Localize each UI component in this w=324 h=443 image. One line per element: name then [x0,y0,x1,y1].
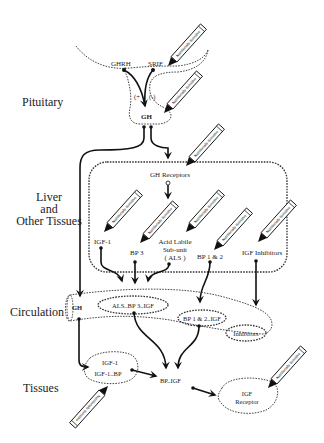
svg-text:Nutritionally Sensitive: Nutritionally Sensitive [111,196,137,224]
ghrh-label: GHRH [111,60,131,68]
liver-igf-inhibitors-label: IGF Inhibitors [242,249,283,257]
igf-receptor-label-1: IGF [242,390,253,397]
igf-receptor-label-2: Receptor [235,398,259,405]
liver-bp12-label: BP 1 & 2 [197,253,223,261]
svg-text:Nutritionally Sensitive: Nutritionally Sensitive [221,214,247,242]
bp12-igf-label: BP 1 & 2..IGF [183,315,221,322]
pencil-igf-inhibitors: Nutritionally Sensitive [255,200,296,245]
svg-text:Nutritionally Sensitive: Nutritionally Sensitive [275,352,301,380]
tissue-cell-outline [84,352,138,384]
tissue-igf1-bp-label: IGF-1..BP [94,370,121,377]
svg-text:Nutritionally Sensitive: Nutritionally Sensitive [175,30,201,58]
region-label-tissues: Tissues [23,381,59,395]
liver-bp3-label: BP 3 [130,249,144,257]
srif-arrow [145,70,153,106]
circulation-gh-label: GH [72,304,82,311]
liver-als-line1: Acid Labile [158,238,191,246]
gh-to-liver-arrow [151,127,168,158]
gh-to-tissues-arrow [79,319,88,367]
pencil-tissue-cell: Nutritionally Sensitive [70,383,111,428]
pencil-bp12: Nutritionally Sensitive [211,208,252,253]
svg-text:Nutritionally Sensitive: Nutritionally Sensitive [171,77,197,105]
bp-igf-arrow [193,388,215,395]
gh-igf-axis-diagram: Pituitary Liver and Other Tissues Circul… [0,0,324,443]
liver-als-line2: Sub-unit [163,246,187,254]
bp12-complex-arrow [178,326,199,368]
inhibit-sign: (-) [149,93,156,101]
pencil-igf1: Nutritionally Sensitive [101,190,142,235]
igf1-arrow [101,248,122,281]
circulation-inhibitors-label: Inhibitors [233,330,259,337]
pencil-pituitary: Nutritionally Sensitive [161,71,202,116]
gh-receptor-circle [166,181,170,185]
ghrh-arrow [124,70,145,106]
liver-igf1-label: IGF-1 [94,238,112,246]
liver-als-line3: ( ALS ) [165,254,187,262]
pituitary-gh-label: GH [141,113,152,121]
tissue-igf1-label: IGF-1 [102,359,118,366]
als-bp3-igf-label: ALS..BP 3..IGF [112,302,154,309]
pencil-igf-receptor: Nutritionally Sensitive [265,346,306,391]
region-label-other-tissues: Other Tissues [16,214,82,228]
gh-receptors-label: GH Receptors [150,171,190,179]
svg-text:Nutritionally Sensitive: Nutritionally Sensitive [193,130,219,158]
region-label-circulation: Circulation [10,305,64,319]
pencil-als: Nutritionally Sensitive [183,190,224,235]
circulation-tube [66,289,273,334]
stimulate-sign: (+ [134,93,140,101]
bp12-arrow [200,262,210,302]
als-complex-arrow [134,313,166,368]
svg-text:Nutritionally Sensitive: Nutritionally Sensitive [147,207,173,235]
svg-text:Nutritionally Sensitive: Nutritionally Sensitive [193,196,219,224]
svg-text:Nutritionally Sensitive: Nutritionally Sensitive [75,394,101,422]
bp-igf-label: BP..IGF [160,377,181,384]
srif-label: SRIF [148,60,163,68]
region-label-pituitary: Pituitary [22,95,63,109]
pencil-srif: Nutritionally Sensitive [165,24,206,69]
